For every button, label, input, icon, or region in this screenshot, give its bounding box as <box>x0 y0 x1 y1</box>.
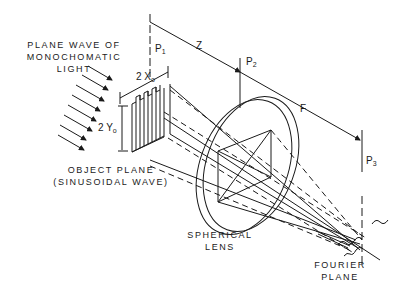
light-source-line1: PLANE WAVE OF <box>14 39 134 51</box>
height-symbol: 2 Yo <box>98 123 117 136</box>
light-arrows-icon <box>58 66 112 150</box>
z-symbol: Z <box>196 41 202 51</box>
light-source-line2: MONOCHOMATIC <box>14 51 134 63</box>
fourier-optics-diagram: PLANE WAVE OF MONOCHOMATIC LIGHT OBJECT … <box>0 0 412 295</box>
spherical-lens <box>179 83 317 248</box>
p1-symbol: P1 <box>155 44 166 57</box>
lens-line1: SPHERICAL <box>180 229 260 241</box>
fourier-line1: FOURIER <box>300 259 380 271</box>
width-symbol: 2 Xo <box>136 72 155 85</box>
object-plane-line2: (SINUSOIDAL WAVE) <box>52 176 170 188</box>
f-symbol: F <box>300 104 306 114</box>
lens-label: SPHERICAL LENS <box>180 229 260 253</box>
light-source-line3: LIGHT <box>14 63 134 75</box>
p2-symbol: P2 <box>246 57 257 70</box>
light-source-label: PLANE WAVE OF MONOCHOMATIC LIGHT <box>14 39 134 75</box>
fourier-plane-label: FOURIER PLANE <box>300 259 380 283</box>
lens-line2: LENS <box>180 241 260 253</box>
object-plane-line1: OBJECT PLANE <box>52 164 170 176</box>
object-plane-label: OBJECT PLANE (SINUSOIDAL WAVE) <box>52 164 170 188</box>
p3-symbol: P3 <box>366 156 377 169</box>
fourier-line2: PLANE <box>300 271 380 283</box>
